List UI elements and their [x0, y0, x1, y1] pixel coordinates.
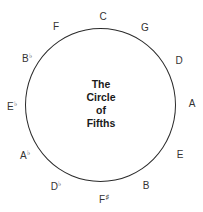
note-label: F [53, 22, 59, 32]
note-label: D [175, 56, 182, 66]
note-label: B♭ [22, 52, 32, 64]
note-name: G [141, 22, 149, 33]
flat-icon: ♭ [58, 180, 61, 187]
note-label: C [99, 12, 106, 22]
note-label: E♭ [7, 100, 17, 112]
note-label: F♯ [99, 193, 109, 205]
note-label: E [177, 150, 184, 160]
sharp-icon: ♯ [106, 193, 110, 200]
note-label: B [143, 181, 150, 191]
note-label: D♭ [51, 180, 62, 192]
note-name: E [7, 101, 14, 112]
title-line: Circle [86, 91, 115, 104]
diagram-title: The Circle of Fifths [86, 78, 115, 130]
note-label: A [189, 99, 196, 109]
note-name: D [51, 181, 58, 192]
note-name: D [175, 55, 182, 66]
flat-icon: ♭ [29, 52, 32, 59]
title-line: Fifths [86, 117, 115, 130]
flat-icon: ♭ [14, 100, 17, 107]
note-label: A♭ [20, 149, 30, 161]
note-name: C [99, 11, 106, 22]
title-line: of [86, 104, 115, 117]
title-line: The [86, 78, 115, 91]
note-name: F [53, 21, 59, 32]
note-label: G [141, 23, 149, 33]
note-name: A [20, 150, 27, 161]
note-name: B [143, 180, 150, 191]
flat-icon: ♭ [27, 149, 30, 156]
note-name: F [99, 194, 105, 205]
note-name: E [177, 149, 184, 160]
note-name: B [22, 53, 29, 64]
note-name: A [189, 98, 196, 109]
